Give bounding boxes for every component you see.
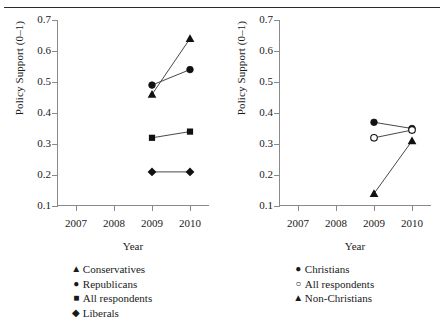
y-tick-label-left: 0.3 [19,138,51,149]
series-line-conservatives [152,39,190,95]
legend-right: ●Christians○All respondents▲Non-Christia… [222,262,444,306]
legend-item-republicans: ●Republicans [70,277,152,292]
x-tick-label-right: 2008 [315,217,357,229]
legend-left: ▲Conservatives●Republicans■All responden… [0,262,222,320]
marker-diamond-liberals [186,168,195,177]
marker-diamond-liberals [148,168,157,177]
legend-item-liberals: ◆Liberals [70,306,152,321]
legend-marker-icon: ▲ [292,291,305,306]
legend-item-christians: ●Christians [292,262,374,277]
series-line-all-respondents [152,132,190,138]
marker-circle-christians [371,119,378,126]
marker-square-all-respondents [149,135,155,141]
marker-triangle-conservatives [148,90,157,98]
y-tick-label-right: 0.6 [241,45,273,56]
legend-item-all-respondents: ○All respondents [292,277,374,292]
x-axis-label-left: Year [57,240,209,252]
legend-marker-icon: ● [292,262,305,277]
marker-triangle-conservatives [186,34,195,42]
y-tick-label-right: 0.3 [241,138,273,149]
series-line-christians [374,122,412,128]
y-tick-label-right: 0.5 [241,76,273,87]
marker-circle-open-all-respondents [371,135,378,142]
legend-item-conservatives: ▲Conservatives [70,262,152,277]
series-layer-left [57,20,209,206]
x-tick-label-right: 2010 [391,217,433,229]
x-tick-label-left: 2007 [55,217,97,229]
x-tick-label-right: 2009 [353,217,395,229]
legend-marker-icon: ■ [70,291,83,306]
marker-circle-open-all-respondents [409,127,416,134]
plot-area-left: 0.10.20.30.40.50.60.72007200820092010 [57,20,209,206]
plot-area-right: 0.10.20.30.40.50.60.72007200820092010 [279,20,431,206]
series-layer-right [279,20,431,206]
x-tick-label-left: 2010 [169,217,211,229]
y-tick-label-right: 0.7 [241,14,273,25]
legend-item-all-respondents: ■All respondents [70,291,152,306]
y-tick-label-left: 0.6 [19,45,51,56]
y-tick-label-left: 0.1 [19,200,51,211]
marker-triangle-non-christians [408,137,417,145]
x-tick-label-right: 2007 [277,217,319,229]
legend-label: Christians [305,262,350,277]
x-tick-label-left: 2008 [93,217,135,229]
legend-marker-icon: ◆ [70,306,83,321]
y-tick-label-left: 0.2 [19,169,51,180]
marker-square-all-respondents [187,129,193,135]
legend-marker-icon: ● [70,277,83,292]
legend-label: All respondents [305,277,374,292]
legend-label: All respondents [83,291,152,306]
y-tick-label-right: 0.4 [241,107,273,118]
chart-panel-right: Policy Support (0–1) 0.10.20.30.40.50.60… [222,0,444,334]
series-line-all-respondents [374,130,412,138]
legend-label: Republicans [83,277,137,292]
series-line-non-christians [374,141,412,194]
y-tick-label-right: 0.2 [241,169,273,180]
legend-label: Liberals [83,306,119,321]
y-tick-label-right: 0.1 [241,200,273,211]
marker-triangle-non-christians [370,189,379,197]
chart-panel-left: Policy Support (0–1) 0.10.20.30.40.50.60… [0,0,222,334]
marker-circle-republicans [149,82,156,89]
legend-marker-icon: ▲ [70,262,83,277]
y-tick-left [52,206,58,207]
x-axis-label-right: Year [279,240,431,252]
series-line-republicans [152,70,190,86]
y-tick-label-left: 0.7 [19,14,51,25]
legend-marker-icon: ○ [292,277,305,292]
legend-label: Non-Christians [305,291,372,306]
y-tick-right [274,206,280,207]
legend-item-non-christians: ▲Non-Christians [292,291,374,306]
y-tick-label-left: 0.5 [19,76,51,87]
legend-label: Conservatives [83,262,145,277]
x-tick-label-left: 2009 [131,217,173,229]
marker-circle-republicans [187,66,194,73]
y-tick-label-left: 0.4 [19,107,51,118]
